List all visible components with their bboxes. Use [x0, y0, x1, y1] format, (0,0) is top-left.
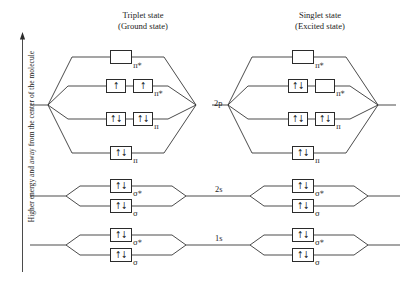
electron-occupancy: ↑	[113, 81, 119, 90]
orbital-symbol: π*	[154, 89, 163, 98]
mo-box[interactable]: ↑	[133, 79, 153, 93]
orbital-symbol: σ	[133, 209, 138, 218]
orbital-symbol: σ*	[133, 189, 142, 198]
electron-occupancy: ↑↓	[115, 201, 127, 210]
column-title-triplet-line2: (Ground state)	[68, 21, 218, 32]
column-title-singlet-line1: Singlet state	[299, 10, 341, 20]
orbital-symbol: π*	[133, 61, 142, 70]
mo-box[interactable]: ↑↓	[292, 179, 314, 193]
electron-occupancy: ↑↓	[297, 250, 309, 259]
mo-box[interactable]: ↑↓	[292, 146, 314, 160]
ao-label-2s: 2s	[215, 185, 222, 194]
mo-box[interactable]: ↑↓	[133, 112, 153, 126]
mo-box[interactable]	[292, 50, 314, 64]
electron-occupancy: ↑↓	[292, 114, 304, 123]
mo-box[interactable]: ↑↓	[292, 199, 314, 213]
mo-diagram-figure: Higher energy and away from the center o…	[0, 0, 414, 283]
triplet-2p-correlation	[30, 57, 196, 153]
electron-occupancy: ↑↓	[137, 114, 149, 123]
orbital-symbol: σ*	[315, 189, 324, 198]
mo-box[interactable]: ↑↓	[110, 179, 132, 193]
mo-box[interactable]: ↑↓	[288, 112, 308, 126]
orbital-symbol: σ*	[133, 238, 142, 247]
energy-axis-label: Higher energy and away from the center o…	[27, 22, 36, 252]
mo-box[interactable]: ↑↓	[292, 228, 314, 242]
mo-box[interactable]: ↑↓	[110, 146, 132, 160]
mo-box[interactable]	[315, 79, 335, 93]
mo-box[interactable]	[110, 50, 132, 64]
electron-occupancy: ↑↓	[115, 250, 127, 259]
electron-occupancy: ↑	[140, 81, 146, 90]
orbital-symbol: π	[315, 156, 320, 165]
column-title-triplet: Triplet state (Ground state)	[68, 10, 218, 32]
orbital-symbol: π*	[315, 61, 324, 70]
orbital-symbol: σ	[315, 258, 320, 267]
mo-box[interactable]: ↑↓	[110, 228, 132, 242]
electron-occupancy: ↑↓	[115, 230, 127, 239]
electron-occupancy: ↑↓	[319, 114, 331, 123]
ao-label-2p: 2p	[214, 99, 222, 108]
mo-box[interactable]: ↑↓	[106, 112, 126, 126]
column-title-triplet-line1: Triplet state	[123, 10, 164, 20]
electron-occupancy: ↑↓	[297, 181, 309, 190]
mo-box[interactable]: ↑↓	[110, 248, 132, 262]
electron-occupancy: ↑↓	[115, 148, 127, 157]
electron-occupancy: ↑↓	[297, 201, 309, 210]
electron-occupancy: ↑↓	[110, 114, 122, 123]
electron-occupancy: ↑↓	[297, 148, 309, 157]
column-title-singlet: Singlet state (Excited state)	[245, 10, 395, 32]
orbital-symbol: π	[154, 122, 159, 131]
orbital-symbol: π	[133, 156, 138, 165]
orbital-symbol: π*	[336, 89, 345, 98]
diagram-lines	[0, 0, 414, 283]
orbital-symbol: σ	[133, 258, 138, 267]
mo-box[interactable]: ↑↓	[110, 199, 132, 213]
mo-box[interactable]: ↑↓	[292, 248, 314, 262]
column-title-singlet-line2: (Excited state)	[245, 21, 395, 32]
electron-occupancy: ↑↓	[292, 81, 304, 90]
electron-occupancy: ↑↓	[115, 181, 127, 190]
ao-label-1s: 1s	[215, 234, 222, 243]
energy-axis	[20, 32, 25, 272]
mo-box[interactable]: ↑↓	[288, 79, 308, 93]
orbital-symbol: σ*	[315, 238, 324, 247]
singlet-2p-correlation	[212, 57, 396, 153]
orbital-symbol: σ	[315, 209, 320, 218]
orbital-symbol: π	[336, 122, 341, 131]
electron-occupancy: ↑↓	[297, 230, 309, 239]
mo-box[interactable]: ↑↓	[315, 112, 335, 126]
mo-box[interactable]: ↑	[106, 79, 126, 93]
